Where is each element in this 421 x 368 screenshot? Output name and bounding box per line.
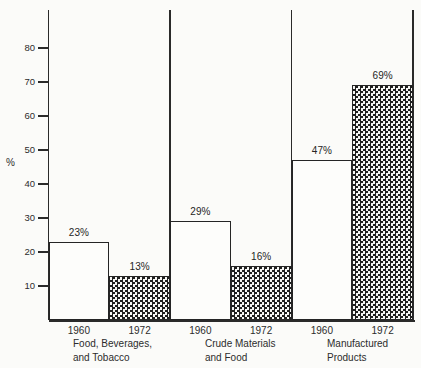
y-tick-label: 40	[15, 178, 35, 190]
bar-value-label: 23%	[57, 227, 101, 239]
bar-value-label: 16%	[239, 251, 283, 263]
bar-1960-group2	[170, 221, 231, 320]
y-tick-label: 20	[15, 246, 35, 258]
x-tick-label-1960: 1960	[178, 325, 222, 337]
y-tick-label: 30	[15, 212, 35, 224]
y-tick-mark	[38, 149, 48, 151]
bar-1960-group1	[49, 242, 110, 320]
y-tick-mark	[38, 81, 48, 83]
y-axis-unit-label: %	[6, 157, 15, 168]
x-tick-label-1972: 1972	[118, 325, 162, 337]
x-tick-label-1960: 1960	[57, 325, 101, 337]
category-label-line: Products	[327, 351, 388, 365]
x-axis-baseline	[49, 320, 415, 322]
bar-value-label: 47%	[300, 145, 344, 157]
bar-chart-figure: % 102030405060708023%196013%1972Food, Be…	[0, 0, 421, 368]
bar-1960-group3	[292, 160, 353, 320]
category-label-group1: Food, Beverages,and Tobacco	[73, 337, 152, 365]
bar-value-label: 29%	[178, 206, 222, 218]
bar-1972-group2	[231, 266, 292, 320]
y-tick-mark	[38, 217, 48, 219]
y-tick-mark	[38, 183, 48, 185]
bar-value-label: 13%	[118, 261, 162, 273]
y-tick-label: 80	[15, 42, 35, 54]
x-tick-label-1972: 1972	[361, 325, 405, 337]
category-label-group3: ManufacturedProducts	[327, 337, 388, 365]
category-label-line: Manufactured	[327, 337, 388, 351]
y-tick-label: 60	[15, 110, 35, 122]
bar-1972-group1	[109, 276, 170, 320]
category-label-group2: Crude Materialsand Food	[205, 337, 276, 365]
y-tick-label: 70	[15, 76, 35, 88]
category-label-line: Crude Materials	[205, 337, 276, 351]
bar-1972-group3	[352, 85, 413, 320]
bar-value-label: 69%	[361, 70, 405, 82]
y-tick-mark	[38, 251, 48, 253]
y-tick-mark	[38, 47, 48, 49]
y-tick-label: 10	[15, 280, 35, 292]
x-tick-label-1972: 1972	[239, 325, 283, 337]
category-label-line: and Tobacco	[73, 351, 152, 365]
category-label-line: and Food	[205, 351, 276, 365]
y-tick-label: 50	[15, 144, 35, 156]
y-tick-mark	[38, 115, 48, 117]
category-label-line: Food, Beverages,	[73, 337, 152, 351]
x-tick-label-1960: 1960	[300, 325, 344, 337]
y-tick-mark	[38, 285, 48, 287]
